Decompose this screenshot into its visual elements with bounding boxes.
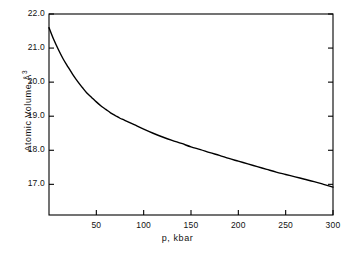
- pressure-volume-chart: [0, 0, 355, 255]
- y-axis-unit-symbol: Å: [23, 74, 33, 81]
- x-tick-label: 250: [266, 220, 306, 230]
- x-tick-label: 50: [76, 220, 116, 230]
- y-axis-title-text: Atomic Volume,: [23, 81, 33, 152]
- y-axis-unit: Å3: [21, 70, 33, 80]
- tick-marks: [49, 14, 333, 215]
- x-tick-label: 200: [218, 220, 258, 230]
- x-tick-label: 150: [171, 220, 211, 230]
- figure-container: 17.018.019.020.021.022.0 501001502002503…: [0, 0, 355, 255]
- y-axis-title: Atomic Volume, Å3: [21, 16, 33, 206]
- x-tick-label: 100: [124, 220, 164, 230]
- plot-frame: [49, 14, 333, 215]
- y-axis-unit-exponent: 3: [21, 70, 28, 74]
- data-curve-line: [49, 28, 333, 187]
- x-tick-label: 300: [313, 220, 353, 230]
- x-axis-title: p, kbar: [0, 233, 355, 243]
